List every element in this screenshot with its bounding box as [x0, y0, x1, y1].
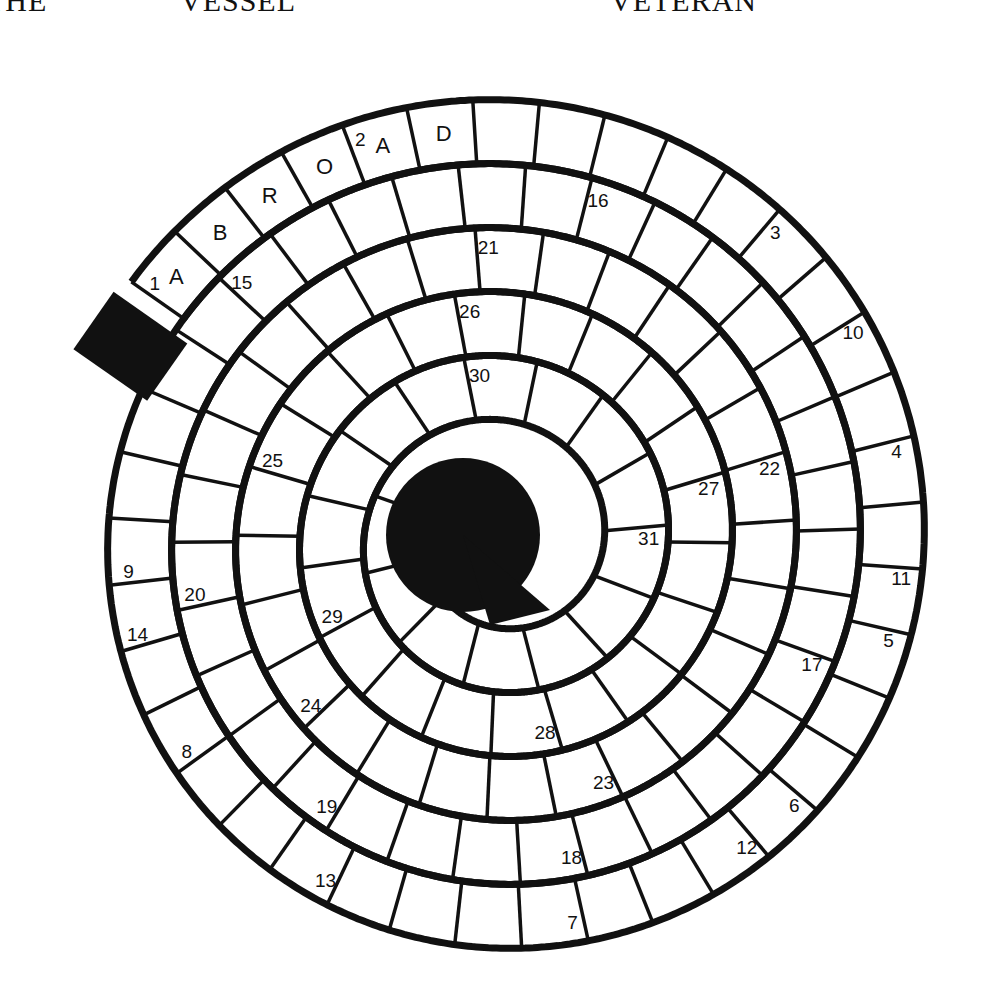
cell-divider [340, 430, 393, 466]
entered-letter: O [316, 154, 333, 179]
cell-divider [629, 863, 653, 922]
cell-divider [473, 100, 477, 164]
cell-divider [778, 257, 826, 299]
cell-divider [624, 796, 652, 854]
cell-divider [643, 137, 668, 196]
cell-divider [307, 496, 369, 510]
cell-divider [518, 884, 521, 948]
cell-divider [343, 264, 375, 320]
cell-divider [791, 462, 853, 476]
cell-divider [681, 675, 732, 713]
cell-divider [419, 744, 438, 805]
clue-number: 17 [801, 654, 822, 675]
cell-divider [634, 285, 669, 338]
cell-divider [594, 576, 654, 599]
clue-number: 12 [736, 837, 757, 858]
cell-divider [524, 362, 537, 425]
cell-divider [389, 868, 406, 930]
cell-divider [676, 237, 713, 289]
cell-divider [453, 816, 462, 879]
cell-divider [776, 397, 835, 422]
cell-divider [463, 623, 479, 685]
cell-divider [656, 592, 717, 612]
cell-divider [180, 474, 243, 487]
cell-divider [270, 817, 307, 869]
cell-divider [835, 372, 894, 397]
entered-letter: R [262, 183, 278, 208]
cell-divider [265, 640, 321, 671]
cell-divider [568, 314, 592, 373]
cell-divider [535, 232, 544, 295]
cell-divider [455, 881, 462, 945]
cell-divider [236, 535, 300, 536]
cell-divider [229, 699, 281, 736]
cell-divider [628, 202, 655, 260]
cell-divider [591, 670, 628, 722]
cell-divider [715, 733, 763, 776]
entered-letter: A [376, 133, 391, 158]
cell-divider [225, 188, 264, 238]
cell-divider [491, 692, 494, 756]
clue-number: 22 [759, 458, 780, 479]
clue-number: 14 [127, 624, 149, 645]
cell-divider [534, 102, 540, 166]
clue-number: 24 [300, 695, 322, 716]
cell-divider [203, 410, 262, 436]
cell-divider [732, 520, 796, 524]
cell-divider [644, 407, 697, 443]
clue-number: 23 [593, 772, 614, 793]
clue-number: 3 [770, 222, 781, 243]
cell-divider [796, 529, 860, 531]
spiral-crossword-grid: ABROAD1234567891011121314151617181920212… [0, 0, 1008, 1007]
cell-divider [392, 177, 410, 238]
cell-divider [668, 542, 732, 543]
cell-divider [595, 453, 650, 485]
cell-divider [710, 629, 769, 654]
cell-divider [673, 769, 712, 820]
cell-divider [286, 302, 329, 350]
cell-divider [407, 239, 426, 300]
clue-number: 25 [262, 450, 283, 471]
cell-divider [544, 754, 557, 817]
cell-divider [109, 518, 173, 522]
clue-number: 5 [883, 630, 894, 651]
clue-number: 30 [469, 365, 490, 386]
cell-divider [751, 336, 804, 372]
cell-divider [717, 283, 763, 328]
clue-number: 21 [478, 237, 499, 258]
cell-divider [517, 820, 521, 884]
cell-divider [750, 689, 805, 722]
cell-divider [300, 559, 363, 568]
cell-divider [273, 741, 316, 788]
cell-divider [357, 720, 390, 775]
cell-divider [394, 382, 429, 435]
cell-divider [362, 649, 404, 697]
cell-divider [120, 452, 182, 466]
cell-divider [630, 636, 681, 674]
cell-divider [587, 252, 610, 312]
cell-divider [521, 165, 525, 229]
entered-letter: A [169, 264, 184, 289]
cell-divider [642, 712, 683, 761]
clue-number: 9 [123, 561, 134, 582]
cell-divider [727, 578, 790, 589]
cell-divider [458, 165, 465, 229]
clue-number: 6 [789, 795, 800, 816]
clue-number: 19 [316, 796, 337, 817]
cell-divider [327, 351, 370, 398]
cell-divider [109, 578, 173, 585]
cell-divider [239, 352, 291, 389]
clue-number: 4 [891, 441, 902, 462]
cell-divider [270, 234, 308, 285]
clue-number: 8 [182, 741, 193, 762]
clue-number: 1 [150, 273, 161, 294]
cell-divider [852, 436, 914, 452]
cell-divider [849, 620, 911, 634]
cell-divider [487, 756, 490, 820]
cell-divider [693, 169, 726, 224]
clue-number: 20 [184, 584, 205, 605]
entered-letter: B [213, 220, 228, 245]
clue-number: 13 [315, 870, 336, 891]
clue-number: 2 [355, 129, 366, 150]
clue-number: 28 [535, 722, 556, 743]
